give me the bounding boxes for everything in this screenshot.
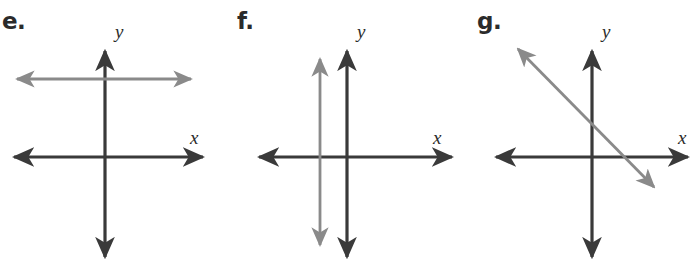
coordinate-plane-g <box>462 0 692 273</box>
panel-g: g. y x <box>462 0 692 273</box>
figure-root: e. y x f. y x <box>0 0 692 273</box>
coordinate-plane-e <box>0 0 230 273</box>
diagonal-negative-slope-line-g <box>518 49 654 187</box>
coordinate-plane-f <box>230 0 462 273</box>
panel-e: e. y x <box>0 0 230 273</box>
panel-f: f. y x <box>230 0 462 273</box>
